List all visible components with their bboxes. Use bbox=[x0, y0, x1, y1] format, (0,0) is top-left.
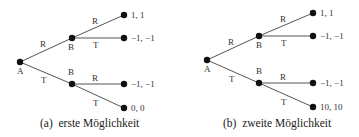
label-b-lower-node: B bbox=[256, 66, 262, 76]
leaf-a-1 bbox=[121, 12, 127, 18]
label-b-edge-upper-r: R bbox=[280, 14, 286, 24]
caption-a: (a) erste Möglichkeit bbox=[40, 117, 140, 130]
payoff-a-2: −1, −1 bbox=[131, 33, 155, 43]
label-a-edge-lower-t: T bbox=[93, 98, 99, 108]
leaf-a-4 bbox=[121, 105, 127, 111]
node-b-upper bbox=[256, 33, 262, 39]
payoff-a-4: 0, 0 bbox=[131, 103, 145, 113]
payoff-a-1: 1, 1 bbox=[131, 10, 145, 20]
tree-b: A B B R T R T R T 1, 1 −1, −1 −1, −1 10,… bbox=[204, 8, 344, 130]
payoff-b-2: −1, −1 bbox=[320, 31, 344, 41]
label-b-edge-lower-t: T bbox=[281, 97, 287, 107]
label-b-edge-root-lower: T bbox=[229, 74, 235, 84]
leaf-a-3 bbox=[121, 81, 127, 87]
tree-a: A B B R T R T R T 1, 1 −1, −1 −1, −1 0, … bbox=[17, 10, 155, 130]
leaf-b-4 bbox=[310, 104, 316, 110]
node-a-root bbox=[17, 59, 23, 65]
payoff-a-3: −1, −1 bbox=[131, 79, 155, 89]
leaf-b-3 bbox=[310, 80, 316, 86]
label-b-upper-node: B bbox=[256, 40, 262, 50]
label-a-edge-root-upper: R bbox=[40, 39, 46, 49]
node-b-lower bbox=[256, 80, 262, 86]
label-a-upper-node: B bbox=[68, 42, 74, 52]
label-a-edge-lower-r: R bbox=[92, 73, 98, 83]
label-b-root: A bbox=[204, 64, 211, 74]
label-a-edge-upper-t: T bbox=[93, 40, 99, 50]
label-b-edge-root-upper: R bbox=[228, 37, 234, 47]
label-b-edge-lower-r: R bbox=[280, 72, 286, 82]
node-b-root bbox=[204, 57, 210, 63]
node-a-lower bbox=[69, 81, 75, 87]
game-trees-figure: A B B R T R T R T 1, 1 −1, −1 −1, −1 0, … bbox=[0, 0, 359, 137]
payoff-b-3: −1, −1 bbox=[320, 78, 344, 88]
label-a-edge-upper-r: R bbox=[92, 16, 98, 26]
label-a-edge-root-lower: T bbox=[41, 75, 47, 85]
leaf-b-2 bbox=[310, 33, 316, 39]
payoff-b-1: 1, 1 bbox=[320, 8, 334, 18]
payoff-b-4: 10, 10 bbox=[320, 102, 343, 112]
caption-b: (b) zweite Möglichkeit bbox=[223, 117, 332, 130]
label-a-root: A bbox=[17, 66, 24, 76]
label-b-edge-upper-t: T bbox=[281, 38, 287, 48]
label-a-lower-node: B bbox=[68, 67, 74, 77]
leaf-a-2 bbox=[121, 35, 127, 41]
node-a-upper bbox=[69, 35, 75, 41]
leaf-b-1 bbox=[310, 10, 316, 16]
